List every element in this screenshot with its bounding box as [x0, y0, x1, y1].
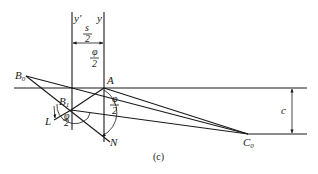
- fraction-phi-small: φ 2: [63, 110, 70, 128]
- svg-text:s: s: [85, 22, 89, 33]
- line-b0-n: [26, 76, 110, 142]
- svg-text:2: 2: [64, 117, 69, 128]
- label-y: y: [96, 12, 102, 24]
- fraction-s-half: s 2: [83, 22, 92, 44]
- label-n: N: [109, 136, 118, 148]
- label-a: A: [106, 74, 114, 86]
- rotation-arc-tick: [88, 113, 90, 118]
- label-c0: C0: [243, 136, 254, 150]
- rotation-arrow-left: [54, 106, 55, 118]
- fraction-phi-half-top: φ 2: [90, 46, 99, 69]
- label-l: L: [44, 115, 51, 127]
- label-c: c: [281, 104, 286, 116]
- label-b1: B1: [59, 95, 69, 109]
- svg-text:φ: φ: [92, 46, 98, 57]
- line-a-c0: [104, 88, 248, 134]
- figure-caption: (c): [153, 151, 164, 163]
- line-b1-a: [71, 88, 104, 110]
- fraction-phi-half-right: φ 2: [110, 93, 119, 116]
- svg-text:2: 2: [92, 58, 97, 69]
- svg-text:2: 2: [85, 33, 90, 44]
- svg-text:2: 2: [112, 105, 117, 116]
- linkage-diagram: B0 B1 A L N C0 y' y s 2 φ 2 φ 2 φ 2 c (c…: [0, 0, 318, 174]
- label-y-prime: y': [73, 12, 82, 24]
- label-b0: B0: [15, 69, 26, 83]
- line-b1-c0: [71, 110, 248, 134]
- svg-text:φ: φ: [112, 93, 118, 104]
